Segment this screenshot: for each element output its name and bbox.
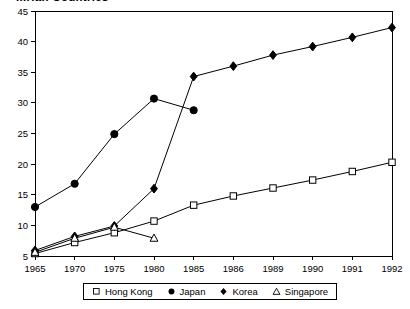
legend-item-hong-kong[interactable]: Hong Kong <box>92 286 153 297</box>
data-point-marker <box>270 185 276 191</box>
x-axis-tick-label: 1985 <box>183 263 204 274</box>
y-axis-tick-label: 5 <box>23 251 28 262</box>
y-axis-tick-label: 10 <box>17 220 28 231</box>
legend-item-label: Singapore <box>285 286 328 297</box>
legend-item-label: Japan <box>180 286 206 297</box>
plot-frame <box>35 11 392 256</box>
x-axis-tick-label: 1991 <box>342 263 363 274</box>
legend-item-japan[interactable]: Japan <box>167 286 206 297</box>
x-axis-tick-label: 1965 <box>24 263 45 274</box>
x-axis-tick-label: 1992 <box>381 263 402 274</box>
data-point-marker <box>71 180 78 187</box>
y-axis-tick-label: 20 <box>17 159 28 170</box>
legend-marker-open-square <box>92 287 101 296</box>
data-point-marker <box>31 203 38 210</box>
data-point-marker <box>309 177 315 183</box>
x-axis-tick-label: 1975 <box>104 263 125 274</box>
data-point-marker <box>111 131 118 138</box>
legend-item-label: Hong Kong <box>105 286 153 297</box>
legend-marker-filled-circle <box>167 287 176 296</box>
y-axis-tick-label: 25 <box>17 128 28 139</box>
data-point-marker <box>190 202 196 208</box>
data-point-marker <box>190 107 197 114</box>
y-axis-tick-label: 40 <box>17 36 28 47</box>
y-axis-tick-label: 35 <box>17 67 28 78</box>
x-axis-tick-label: 1986 <box>223 263 244 274</box>
data-point-marker <box>389 159 395 165</box>
y-axis-tick-label: 30 <box>17 97 28 108</box>
data-point-marker <box>151 218 157 224</box>
data-point-marker <box>349 168 355 174</box>
x-axis-tick-label: 1990 <box>302 263 323 274</box>
chart-figure: ...rian Countries 5101520253035404519651… <box>0 0 410 309</box>
x-axis-tick-label: 1980 <box>143 263 164 274</box>
legend-item-singapore[interactable]: Singapore <box>272 286 328 297</box>
legend-marker-open-triangle <box>272 287 281 296</box>
y-axis-tick-label: 15 <box>17 189 28 200</box>
legend-marker-filled-diamond <box>219 287 228 296</box>
legend-item-korea[interactable]: Korea <box>219 286 257 297</box>
x-axis-tick-label: 1989 <box>262 263 283 274</box>
line-chart-plot: 5101520253035404519651970197519801985198… <box>0 0 410 309</box>
data-point-marker <box>230 193 236 199</box>
legend-item-label: Korea <box>232 286 257 297</box>
y-axis-tick-label: 45 <box>17 6 28 17</box>
data-point-marker <box>150 95 157 102</box>
x-axis-tick-label: 1970 <box>64 263 85 274</box>
chart-legend: Hong KongJapanKoreaSingapore <box>83 283 337 300</box>
